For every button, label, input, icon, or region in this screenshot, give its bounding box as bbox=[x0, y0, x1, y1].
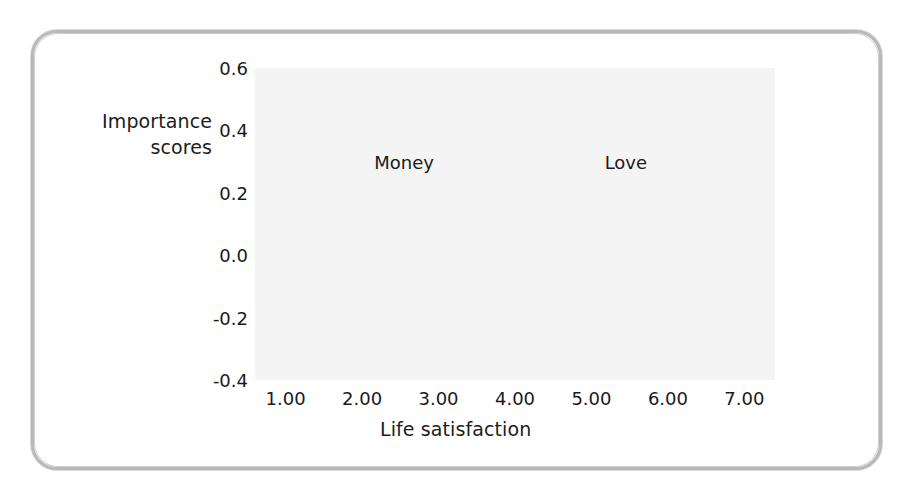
x-tick-label: 3.00 bbox=[404, 388, 474, 409]
y-axis-title-line2: scores bbox=[62, 134, 212, 160]
y-tick-label: -0.2 bbox=[202, 307, 248, 328]
figure-root: Importance scores 0.60.40.20.0-0.2-0.4 M… bbox=[0, 0, 921, 498]
x-tick-label: 7.00 bbox=[709, 388, 779, 409]
x-tick-label: 2.00 bbox=[327, 388, 397, 409]
y-tick-label: 0.4 bbox=[202, 120, 248, 141]
plot-background bbox=[255, 68, 775, 380]
y-tick-label: 0.2 bbox=[202, 182, 248, 203]
plot-area-wrapper: MoneyLove bbox=[255, 68, 775, 380]
y-tick-label: 0.0 bbox=[202, 245, 248, 266]
y-tick-label: -0.4 bbox=[202, 370, 248, 391]
x-axis-tick-labels: 1.002.003.004.005.006.007.00 bbox=[255, 388, 775, 416]
x-axis-title: Life satisfaction bbox=[380, 418, 531, 440]
x-tick-label: 1.00 bbox=[251, 388, 321, 409]
x-tick-label: 5.00 bbox=[556, 388, 626, 409]
x-tick-label: 4.00 bbox=[480, 388, 550, 409]
y-axis-title: Importance scores bbox=[62, 108, 212, 160]
series-label-love: Love bbox=[605, 151, 647, 172]
series-label-money: Money bbox=[374, 151, 434, 172]
y-tick-label: 0.6 bbox=[202, 58, 248, 79]
y-axis-title-line1: Importance bbox=[62, 108, 212, 134]
y-axis-tick-labels: 0.60.40.20.0-0.2-0.4 bbox=[196, 68, 248, 380]
x-tick-label: 6.00 bbox=[633, 388, 703, 409]
